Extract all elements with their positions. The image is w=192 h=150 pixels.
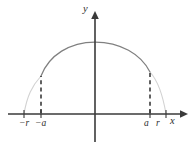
semicircle-faint-left-path xyxy=(24,76,41,114)
semicircle-faint-right-path xyxy=(150,72,166,114)
x-axis-arrowhead xyxy=(180,110,188,118)
y-axis-arrowhead xyxy=(91,11,99,19)
y-axis-label: y xyxy=(83,4,88,15)
semicircle-figure: y x −r −a a r xyxy=(0,0,192,150)
x-axis-label: x xyxy=(170,116,175,127)
tick-label-neg-a: −a xyxy=(35,119,46,129)
tick-label-r: r xyxy=(156,119,160,129)
tick-label-a: a xyxy=(144,119,149,129)
tick-label-neg-r: −r xyxy=(19,119,29,129)
